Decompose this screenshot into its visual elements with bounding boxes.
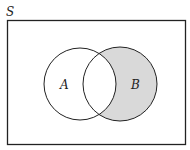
universe-label: S	[6, 5, 14, 19]
set-a-label: A	[59, 78, 69, 92]
set-b-label: B	[130, 78, 140, 92]
venn-diagram: S A B	[0, 0, 190, 150]
